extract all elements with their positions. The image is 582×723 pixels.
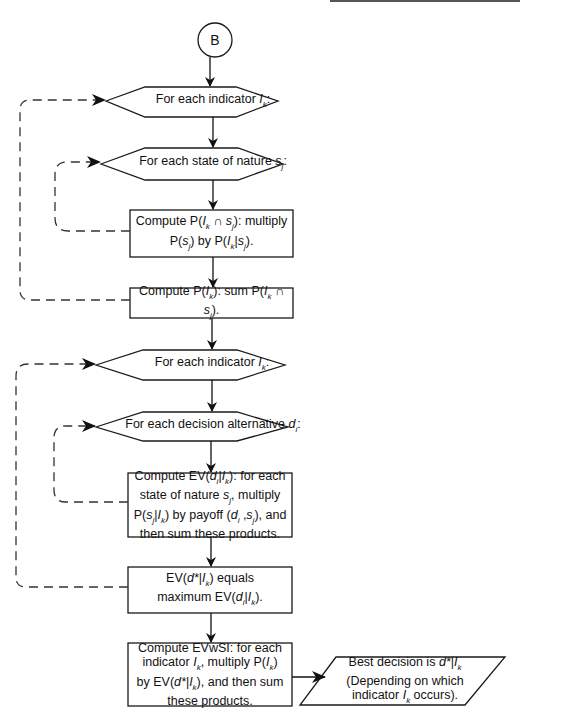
t: ). <box>255 590 263 604</box>
t: occurs). <box>410 688 458 702</box>
hex-decision-label: For each decision alternative di: <box>118 413 308 440</box>
t: indicator <box>352 688 403 702</box>
t: ) by P( <box>190 234 227 248</box>
rect-compute-ev-label: Compute EV(di|Ik): for each state of nat… <box>129 474 291 536</box>
hex-indicator-2-label: For each indicator Ik: <box>136 351 288 379</box>
t: d <box>236 590 243 604</box>
t: k <box>457 662 461 671</box>
t: (Depending on which <box>346 674 463 688</box>
t: indicator <box>142 655 193 669</box>
edge-loop-rect1-to-hex2 <box>55 162 130 231</box>
hex1-post: : <box>267 92 270 106</box>
hex1-text: For each indicator <box>156 92 260 106</box>
t: ∩ <box>210 214 226 228</box>
flowchart-canvas <box>0 0 582 723</box>
t: Compute P( <box>136 214 203 228</box>
t: d <box>210 469 217 483</box>
t: , multiply P( <box>201 655 266 669</box>
hex3-post: : <box>266 355 269 369</box>
t: , multiply <box>231 488 280 502</box>
edge-loop-rect3-to-hex4 <box>54 426 128 502</box>
rect-compute-joint-label: Compute P(Ik ∩ sj): multiply P(sj) by P(… <box>131 211 292 256</box>
t: state of nature <box>140 488 223 502</box>
t: ) <box>273 655 277 669</box>
output-best-decision-label: Best decision is d*|Ik (Depending on whi… <box>330 658 480 704</box>
hex4-text: For each decision alternative <box>125 417 288 431</box>
t: d* <box>174 675 186 689</box>
rect-ev-max-label: EV(d*|Ik) equals maximum EV(di|Ik). <box>129 568 291 612</box>
t: then sum these products. <box>140 527 280 541</box>
edge-loop-rect4-to-hex3 <box>16 364 128 587</box>
t: d* <box>187 571 199 585</box>
hex4-post: : <box>297 417 300 431</box>
hex3-text: For each indicator <box>155 355 259 369</box>
connector-b-text: B <box>210 33 219 47</box>
t: Best decision is <box>349 655 439 669</box>
t: by EV( <box>137 675 175 689</box>
rect-compute-evwsi-label: Compute EVwSI: for each indicator Ik, mu… <box>129 644 291 705</box>
t: ): sum P( <box>213 284 264 298</box>
t: ), and then sum <box>197 675 284 689</box>
connector-b-label: B <box>198 24 232 56</box>
t: ). <box>212 303 220 317</box>
hex2-post: : <box>283 154 286 168</box>
t: Compute EV( <box>135 469 210 483</box>
t: ) equals <box>209 571 253 585</box>
t: P( <box>170 234 183 248</box>
t: d <box>231 508 238 522</box>
edge-loop-rect2-to-hex1 <box>20 100 130 300</box>
t: Compute EVwSI: for each <box>138 641 282 655</box>
t: ): for each <box>229 469 285 483</box>
hex-state-label: For each state of nature sj: <box>130 149 296 179</box>
hex-indicator-1-label: For each indicator Ik: <box>140 88 286 116</box>
t: ), and <box>254 508 286 522</box>
t: ) by payoff ( <box>165 508 231 522</box>
t: ): multiply <box>234 214 287 228</box>
t: Compute P( <box>139 284 206 298</box>
t: EV( <box>166 571 187 585</box>
rect-compute-marginal-label: Compute P(Ik): sum P(Ik ∩ sj). <box>131 289 292 317</box>
t: ). <box>246 234 254 248</box>
hex2-text: For each state of nature <box>139 154 275 168</box>
t: ∩ <box>271 284 283 298</box>
t: these products. <box>167 694 252 708</box>
t: P( <box>134 508 147 522</box>
t: maximum EV( <box>157 590 235 604</box>
t: d* <box>439 655 451 669</box>
